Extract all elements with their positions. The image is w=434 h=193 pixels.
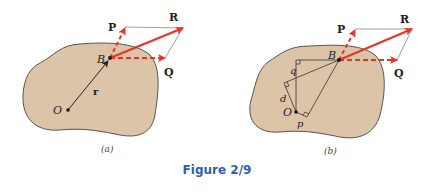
panel-b: P R Q B O q d p (b) xyxy=(250,13,412,156)
sublabel-a: (a) xyxy=(101,144,114,154)
sublabel-b: (b) xyxy=(324,146,337,156)
label-p: P xyxy=(108,21,116,34)
label-d-arm: d xyxy=(280,93,286,104)
label-b: B xyxy=(96,53,105,66)
label-q: Q xyxy=(164,66,174,79)
label-p: P xyxy=(337,23,345,36)
label-p-arm: p xyxy=(297,118,304,129)
label-b: B xyxy=(327,49,336,62)
figure-caption: Figure 2/9 xyxy=(0,163,434,177)
point-o xyxy=(294,110,298,114)
panel-a: P R Q B O r (a) xyxy=(23,11,183,154)
label-r-position: r xyxy=(93,86,99,97)
point-b xyxy=(337,58,341,62)
label-q: Q xyxy=(394,67,404,80)
label-r-resultant: R xyxy=(400,13,410,26)
point-b xyxy=(108,56,112,60)
label-q-arm: q xyxy=(290,65,296,76)
point-o xyxy=(66,108,70,112)
label-r-resultant: R xyxy=(169,11,179,24)
rigid-body-shape xyxy=(23,43,158,136)
label-o: O xyxy=(53,104,62,117)
label-o: O xyxy=(283,106,292,119)
